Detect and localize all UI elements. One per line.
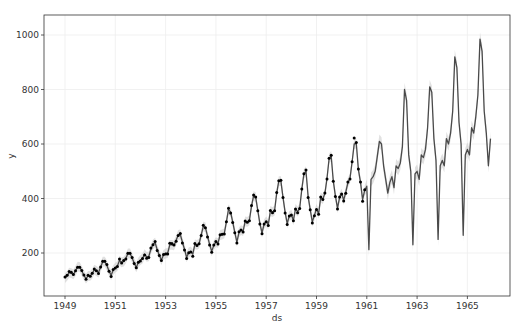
data-point bbox=[311, 222, 314, 225]
x-tick-label: 1957 bbox=[255, 301, 278, 311]
data-point bbox=[95, 269, 98, 272]
y-axis-label: y bbox=[6, 153, 16, 159]
data-point bbox=[202, 224, 205, 227]
data-point bbox=[258, 223, 261, 226]
data-point bbox=[82, 274, 85, 277]
data-point bbox=[254, 196, 257, 199]
data-point bbox=[248, 219, 251, 222]
data-point bbox=[129, 252, 132, 255]
data-point bbox=[185, 257, 188, 260]
x-tick-label: 1963 bbox=[406, 301, 429, 311]
data-point bbox=[261, 232, 264, 235]
data-point bbox=[355, 141, 358, 144]
data-point bbox=[313, 214, 316, 217]
y-tick-label: 400 bbox=[22, 194, 39, 204]
data-point bbox=[158, 254, 161, 257]
data-point bbox=[173, 244, 176, 247]
data-point bbox=[78, 266, 81, 269]
data-point bbox=[105, 263, 108, 266]
data-point bbox=[342, 200, 345, 203]
data-point bbox=[242, 231, 245, 234]
data-point bbox=[181, 241, 184, 244]
data-point bbox=[80, 269, 83, 272]
data-point bbox=[265, 220, 268, 223]
data-point bbox=[227, 207, 230, 210]
data-point bbox=[217, 243, 220, 246]
data-point bbox=[328, 157, 331, 160]
data-point bbox=[317, 213, 320, 216]
data-point bbox=[344, 192, 347, 195]
data-point bbox=[175, 240, 178, 243]
data-point bbox=[353, 137, 356, 140]
data-point bbox=[298, 207, 301, 210]
data-point bbox=[204, 226, 207, 229]
data-point bbox=[74, 269, 77, 272]
data-point bbox=[361, 200, 364, 203]
plot-frame bbox=[44, 15, 510, 296]
data-point bbox=[309, 208, 312, 211]
x-tick-label: 1953 bbox=[154, 301, 177, 311]
data-point bbox=[290, 213, 293, 216]
data-point bbox=[212, 244, 215, 247]
data-point bbox=[294, 207, 297, 210]
data-point bbox=[103, 260, 106, 263]
data-point bbox=[315, 208, 318, 211]
x-axis-ticks: 194919511953195519571959196119631965 bbox=[54, 296, 479, 311]
data-point bbox=[286, 223, 289, 226]
data-point bbox=[70, 271, 73, 274]
data-point bbox=[332, 180, 335, 183]
data-point bbox=[323, 192, 326, 195]
data-point bbox=[279, 179, 282, 182]
data-point bbox=[229, 211, 232, 214]
data-point bbox=[110, 275, 113, 278]
data-point bbox=[231, 221, 234, 224]
data-point bbox=[89, 275, 92, 278]
data-point bbox=[340, 192, 343, 195]
data-point bbox=[177, 234, 180, 237]
x-tick-label: 1951 bbox=[104, 301, 127, 311]
data-point bbox=[296, 211, 299, 214]
data-point bbox=[263, 223, 266, 226]
data-point bbox=[250, 204, 253, 207]
data-point bbox=[338, 196, 341, 199]
data-point bbox=[269, 209, 272, 212]
data-point bbox=[305, 168, 308, 171]
data-point bbox=[116, 265, 119, 268]
data-point bbox=[292, 219, 295, 222]
data-point bbox=[225, 220, 228, 223]
data-point bbox=[267, 224, 270, 227]
x-tick-label: 1965 bbox=[456, 301, 479, 311]
data-point bbox=[359, 180, 362, 183]
data-point bbox=[300, 188, 303, 191]
data-point bbox=[97, 272, 100, 275]
data-point bbox=[273, 209, 276, 212]
data-point bbox=[233, 231, 236, 234]
data-point bbox=[275, 191, 278, 194]
data-point bbox=[166, 253, 169, 256]
data-point bbox=[124, 258, 127, 261]
x-axis-label: ds bbox=[272, 313, 283, 323]
data-point bbox=[319, 195, 322, 198]
y-tick-label: 800 bbox=[22, 85, 39, 95]
data-point bbox=[149, 247, 152, 250]
y-tick-label: 200 bbox=[22, 248, 39, 258]
data-point bbox=[133, 262, 136, 265]
data-point bbox=[363, 188, 366, 191]
x-tick-label: 1961 bbox=[355, 301, 378, 311]
data-point bbox=[118, 258, 121, 261]
y-tick-label: 600 bbox=[22, 139, 39, 149]
y-tick-label: 1000 bbox=[16, 30, 39, 40]
data-point bbox=[141, 257, 144, 260]
data-point bbox=[302, 172, 305, 175]
observed-points bbox=[64, 137, 367, 281]
y-axis-ticks: 2004006008001000 bbox=[16, 30, 44, 258]
data-point bbox=[139, 259, 142, 262]
data-point bbox=[223, 232, 226, 235]
data-point bbox=[351, 160, 354, 163]
data-point bbox=[152, 243, 155, 246]
data-point bbox=[330, 154, 333, 157]
data-point bbox=[189, 250, 192, 253]
data-point bbox=[346, 180, 349, 183]
x-tick-label: 1949 bbox=[54, 301, 77, 311]
data-point bbox=[120, 262, 123, 265]
